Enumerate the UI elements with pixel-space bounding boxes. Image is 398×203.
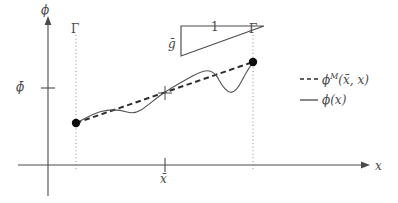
x-bar-tick-label: x̄ — [160, 173, 167, 185]
left-boundary-label: Γ — [71, 23, 79, 35]
gradient-rise-label: ḡ — [168, 38, 176, 50]
xbar-crosshair-marker — [158, 86, 172, 100]
legend-phi-macro-args: (x̄, x) — [338, 73, 369, 87]
x-axis-arrowhead — [361, 162, 370, 169]
phi-axis-label: ϕ — [41, 4, 49, 16]
left-endpoint-dot — [72, 119, 80, 127]
right-endpoint-dot — [249, 58, 257, 66]
right-boundary-label: Γ — [249, 23, 257, 35]
boundary-lines-group — [76, 35, 253, 172]
legend-label-phi-macro: ϕM(x̄, x) — [322, 73, 369, 86]
x-axis-label: x — [375, 160, 382, 172]
phi-bar-tick-label: ϕ̄ — [16, 81, 24, 93]
legend-phi-symbol: ϕ — [322, 93, 330, 107]
gradient-run-label: 1 — [211, 21, 219, 33]
phi-axis-arrowhead — [45, 16, 52, 25]
legend-phi-args: (x) — [330, 93, 346, 107]
axes-group — [18, 16, 370, 196]
legend-phi-macro-symbol: ϕ — [322, 73, 330, 87]
legend-samples — [300, 79, 318, 100]
legend-label-phi: ϕ(x) — [322, 94, 346, 106]
